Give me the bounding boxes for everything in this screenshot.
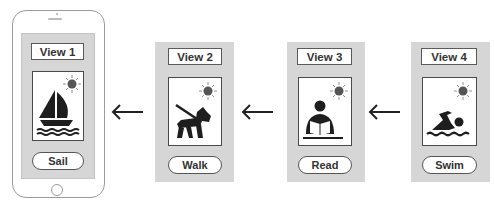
view-2-title: View 2 — [168, 48, 222, 65]
sun-icon — [63, 75, 81, 93]
left-arrow-icon — [111, 104, 144, 120]
view-1-title: View 1 — [31, 43, 84, 60]
view-3-image — [298, 77, 352, 146]
sun-icon — [199, 82, 217, 100]
swimmer-icon — [423, 78, 475, 144]
view-3-title: View 3 — [297, 48, 352, 65]
phone-camera — [56, 13, 58, 15]
left-arrow-icon — [241, 104, 274, 120]
sun-icon — [330, 82, 348, 100]
view-4-image — [422, 77, 477, 146]
phone-speaker — [48, 18, 62, 20]
view-1-image — [32, 71, 84, 141]
sun-icon — [454, 82, 472, 100]
phone-home-button[interactable] — [51, 184, 63, 196]
left-arrow-icon — [368, 104, 401, 120]
view-2-image — [168, 77, 222, 146]
sailboat-icon — [33, 72, 82, 139]
walk-button[interactable]: Walk — [168, 156, 222, 174]
sail-button[interactable]: Sail — [32, 152, 84, 170]
view-4-title: View 4 — [421, 48, 477, 65]
person-reading-icon — [299, 78, 350, 144]
read-button[interactable]: Read — [298, 156, 352, 174]
swim-button[interactable]: Swim — [422, 156, 477, 174]
dog-walking-icon — [169, 78, 220, 144]
